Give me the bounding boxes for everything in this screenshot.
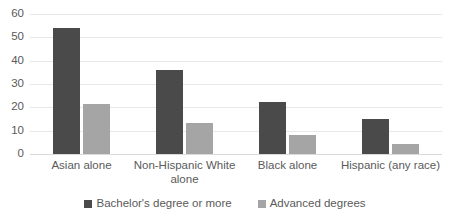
x-axis-tick-label: Asian alone [30,158,133,172]
y-axis-tick-label: 0 [18,148,24,160]
y-axis-tick-label: 40 [11,55,24,67]
bar-group [53,14,110,154]
bar-group [259,14,316,154]
gridline [30,154,442,155]
legend-item[interactable]: Advanced degrees [258,198,366,210]
y-axis-tick-label: 30 [11,78,24,90]
bar[interactable] [392,144,419,154]
chart-legend: Bachelor's degree or moreAdvanced degree… [0,198,450,210]
y-axis-tick-label: 20 [11,102,24,114]
category-axis-labels: Asian aloneNon-Hispanic White aloneBlack… [30,158,442,192]
legend-item[interactable]: Bachelor's degree or more [84,198,231,210]
y-axis-tick-label: 60 [11,8,24,20]
y-axis-tick-label: 10 [11,125,24,137]
legend-swatch-icon [258,200,266,208]
plot-area [30,14,442,154]
bar[interactable] [156,70,183,154]
bar[interactable] [289,135,316,154]
bar[interactable] [362,119,389,154]
bar[interactable] [259,102,286,155]
y-axis: 0102030405060 [0,0,30,168]
legend-swatch-icon [84,200,92,208]
bar-group [156,14,213,154]
bar[interactable] [83,104,110,154]
bar[interactable] [186,123,213,154]
x-axis-tick-label: Non-Hispanic White alone [133,158,236,186]
x-axis-tick-label: Hispanic (any race) [339,158,442,172]
bars-layer [30,14,442,154]
x-axis-tick-label: Black alone [236,158,339,172]
legend-label: Bachelor's degree or more [96,198,231,210]
bar-chart: 0102030405060 Asian aloneNon-Hispanic Wh… [0,0,450,221]
legend-label: Advanced degrees [270,198,366,210]
bar[interactable] [53,28,80,154]
y-axis-tick-label: 50 [11,32,24,44]
bar-group [362,14,419,154]
